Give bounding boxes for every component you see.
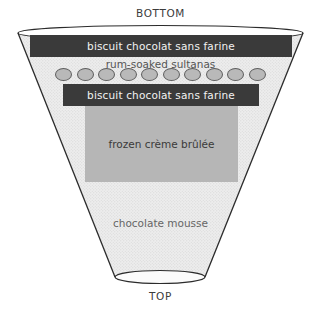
layer-label-chocolate-mousse: chocolate mousse [0, 217, 321, 229]
sultana-icon [227, 68, 244, 81]
sultana-icon [184, 68, 201, 81]
layer-label-biscuit-bottom: biscuit chocolat sans farine [87, 89, 235, 101]
diagram-canvas: BOTTOM biscuit chocolat sans farine rum-… [0, 0, 321, 310]
layer-label-creme-brulee: frozen crème brûlée [109, 138, 215, 150]
sultana-icon [163, 68, 180, 81]
sultana-icon [120, 68, 137, 81]
sultana-icon [98, 68, 115, 81]
sultana-icon [141, 68, 158, 81]
layer-sultanas-row [55, 67, 266, 81]
layer-label-biscuit-top: biscuit chocolat sans farine [87, 40, 235, 52]
sultana-icon [249, 68, 266, 81]
layer-frozen-creme-brulee: frozen crème brûlée [85, 106, 238, 182]
layer-biscuit-chocolat-top: biscuit chocolat sans farine [30, 35, 292, 57]
layer-biscuit-chocolat-bottom: biscuit chocolat sans farine [63, 84, 259, 106]
sultana-icon [77, 68, 94, 81]
top-orientation-label: TOP [0, 290, 321, 302]
sultana-icon [55, 68, 72, 81]
sultana-icon [206, 68, 223, 81]
bottom-rim-ellipse [115, 271, 205, 284]
